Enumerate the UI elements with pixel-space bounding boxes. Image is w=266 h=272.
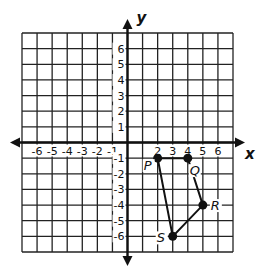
y-axis-arrow-down-icon [123,256,133,266]
point-r [198,201,207,210]
x-tick-label: -6 [32,145,43,158]
x-axis-label: x [244,145,256,163]
point-label-r: R [211,198,220,213]
y-tick-label: 4 [118,74,125,87]
x-axis-arrow-right-icon [235,138,245,148]
coordinate-plane: xy -6-5-4-3-2-123456654321-1-2-3-4-5-6 P… [0,0,266,272]
y-tick-label: -5 [114,215,125,228]
y-tick-label: 5 [118,58,125,71]
x-tick-label: 3 [169,145,176,158]
x-tick-label: -3 [77,145,88,158]
point-s [168,232,177,241]
y-axis-arrow-up-icon [123,19,133,29]
y-tick-label: 3 [118,90,125,103]
y-tick-label: -3 [114,183,125,196]
points: PQRS [143,154,222,246]
point-label-s: S [157,230,165,245]
y-tick-label: -4 [114,199,125,212]
x-tick-label: -2 [92,145,103,158]
y-tick-label: -2 [114,168,125,181]
x-axis-arrow-left-icon [10,138,20,148]
x-tick-label: -4 [62,145,73,158]
point-label-q: Q [190,163,200,178]
y-axis-label: y [137,9,148,27]
x-tick-label: 6 [214,145,221,158]
y-tick-label: 2 [118,105,125,118]
x-tick-label: -5 [47,145,58,158]
y-tick-label: -6 [114,230,125,243]
x-tick-label: 5 [199,145,206,158]
point-q [183,154,192,163]
y-tick-label: -1 [114,152,125,165]
y-tick-label: 6 [118,43,125,56]
point-label-p: P [144,158,152,173]
axes: xy [10,9,256,266]
y-tick-label: 1 [118,121,125,134]
